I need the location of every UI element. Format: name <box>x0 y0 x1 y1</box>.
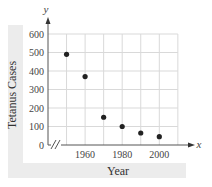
y-tick-label: 300 <box>29 84 44 95</box>
data-point <box>64 52 69 57</box>
data-point <box>157 134 162 139</box>
data-point <box>83 74 88 79</box>
y-tick-label: 200 <box>29 103 44 114</box>
x-axis-letter: x <box>196 138 202 150</box>
x-tick-label: 1980 <box>112 149 132 160</box>
y-axis-title: Tetanus Cases <box>5 61 19 129</box>
axes <box>46 17 196 150</box>
y-tick-label: 500 <box>29 47 44 58</box>
x-tick-label: 1960 <box>75 149 95 160</box>
y-axis-arrow-icon <box>46 17 51 24</box>
y-tick-labels: 0100200300400500600 <box>29 29 44 151</box>
data-point <box>101 115 106 120</box>
x-axis-arrow-icon <box>188 143 195 148</box>
y-tick-label: 0 <box>39 140 44 151</box>
y-tick-label: 400 <box>29 66 44 77</box>
data-point <box>120 124 125 129</box>
x-tick-label: 2000 <box>149 149 169 160</box>
y-axis-letter: y <box>43 3 49 15</box>
data-point <box>138 130 143 135</box>
y-tick-label: 600 <box>29 29 44 40</box>
scatter-chart: 0100200300400500600 196019802000 y x Tet… <box>0 0 212 187</box>
grid <box>48 34 178 145</box>
x-axis-title: Year <box>107 164 129 178</box>
x-tick-labels: 196019802000 <box>75 149 169 160</box>
y-tick-label: 100 <box>29 121 44 132</box>
